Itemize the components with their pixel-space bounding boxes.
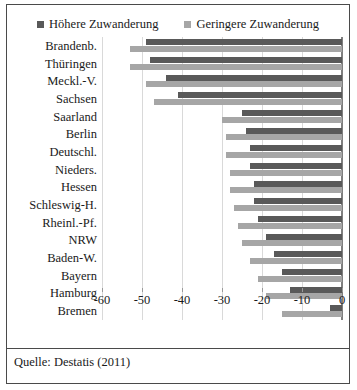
category-label: NRW [69, 232, 97, 248]
gridline [142, 37, 143, 320]
x-axis-tick [182, 288, 183, 292]
bar [150, 57, 342, 63]
category-label: Rheinl.-Pf. [42, 215, 97, 231]
x-axis-tick-label: -40 [174, 293, 191, 308]
x-axis-tick-label: -10 [294, 293, 311, 308]
category-label: Deutschl. [49, 144, 97, 160]
chart-legend: Höhere Zuwanderung Geringere Zuwanderung [7, 13, 349, 35]
legend-label: Geringere Zuwanderung [196, 18, 319, 31]
bar [154, 99, 342, 105]
x-axis-tick [102, 288, 103, 292]
bar [234, 205, 342, 211]
bar [258, 216, 342, 222]
axis-zero-line [342, 37, 343, 320]
bar [178, 92, 342, 98]
bar [266, 234, 342, 240]
bar [242, 240, 342, 246]
source-note: Quelle: Destatis (2011) [14, 355, 130, 370]
bar [282, 311, 342, 317]
legend-item-hoehere-zuwanderung: Höhere Zuwanderung [37, 18, 158, 31]
x-axis-tick [302, 288, 303, 292]
bar [130, 64, 342, 70]
bar [226, 134, 342, 140]
bar [146, 39, 342, 45]
category-label: Hamburg [50, 285, 97, 301]
x-axis-tick-label: 0 [339, 293, 345, 308]
bar [254, 181, 342, 187]
category-label: Brandenb. [45, 38, 97, 54]
x-axis-tick-label: -50 [134, 293, 151, 308]
bar [242, 110, 342, 116]
bar [246, 128, 342, 134]
legend-label: Höhere Zuwanderung [49, 18, 158, 31]
chart-figure: Höhere Zuwanderung Geringere Zuwanderung… [6, 4, 350, 384]
bar [230, 170, 342, 176]
category-label: Meckl.-V. [47, 73, 97, 89]
bar [282, 269, 342, 275]
category-label: Berlin [66, 126, 97, 142]
category-label: Bremen [57, 303, 97, 319]
category-label: Bayern [61, 268, 97, 284]
bar [222, 117, 342, 123]
category-label: Thüringen [45, 56, 97, 72]
bar [254, 198, 342, 204]
bar [250, 258, 342, 264]
x-axis: -60-50-40-30-20-100 [102, 288, 342, 312]
bar [166, 75, 342, 81]
x-axis-tick-label: -60 [94, 293, 111, 308]
square-marker-icon [37, 21, 44, 28]
x-axis-tick [222, 288, 223, 292]
category-label: Nieders. [55, 162, 97, 178]
x-axis-tick [142, 288, 143, 292]
x-axis-tick-label: -20 [254, 293, 271, 308]
category-axis-labels: Brandenb.ThüringenMeckl.-V.SachsenSaarla… [7, 37, 101, 320]
bar [130, 46, 342, 52]
gridline [102, 37, 103, 320]
category-label: Hessen [61, 179, 97, 195]
plot-area [102, 37, 342, 320]
bar [226, 152, 342, 158]
bar [250, 163, 342, 169]
bar [258, 276, 342, 282]
category-label: Baden-W. [47, 250, 97, 266]
category-label: Sachsen [56, 91, 97, 107]
bar [146, 81, 342, 87]
bar [250, 145, 342, 151]
category-label: Saarland [53, 109, 97, 125]
x-axis-tick [262, 288, 263, 292]
source-divider [7, 348, 349, 349]
x-axis-tick [342, 288, 343, 292]
square-marker-icon [184, 21, 191, 28]
bar [238, 223, 342, 229]
bar [274, 251, 342, 257]
legend-item-geringere-zuwanderung: Geringere Zuwanderung [184, 18, 319, 31]
x-axis-tick-label: -30 [214, 293, 231, 308]
bar [230, 187, 342, 193]
category-label: Schleswig-H. [29, 197, 97, 213]
